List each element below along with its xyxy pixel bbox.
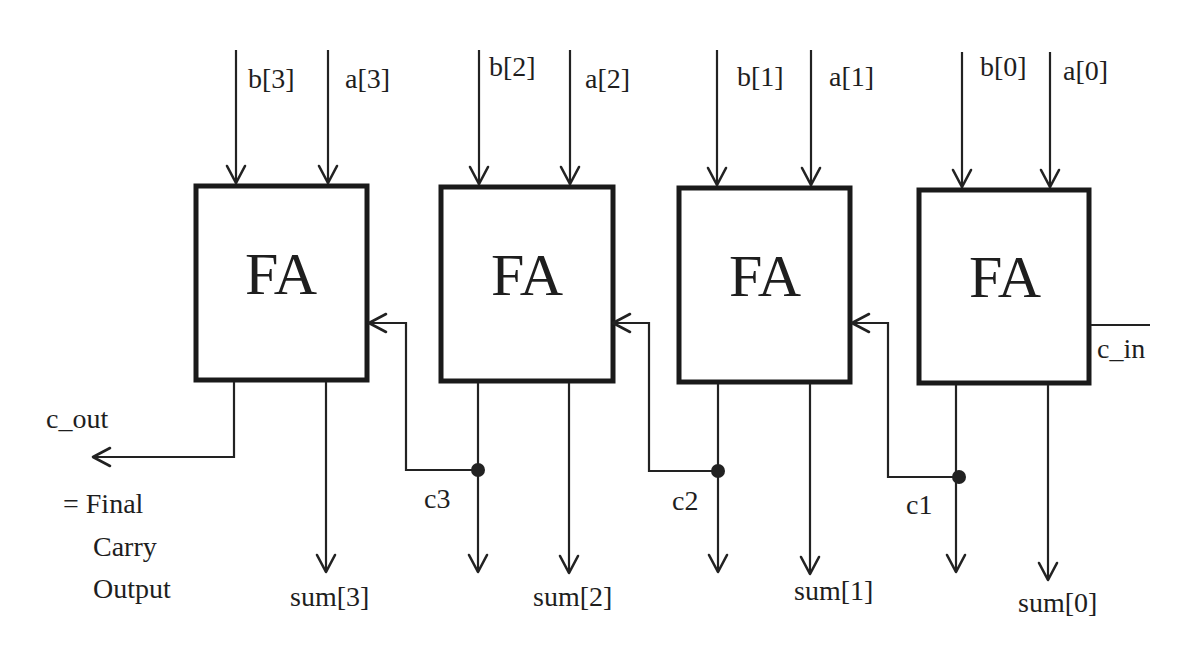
sum2-label: sum[2] [533, 581, 612, 612]
c3-junction-dot [471, 463, 485, 477]
full-adder-1: FA b[1] a[1] c2 sum[1] [613, 50, 874, 606]
a2-label: a[2] [585, 63, 630, 94]
fa3-label: FA [245, 241, 317, 307]
sum3-label: sum[3] [290, 581, 369, 612]
fa1-label: FA [729, 243, 801, 309]
c1-label: c1 [906, 489, 932, 520]
full-adder-2: FA b[2] a[2] c3 sum[2] [369, 50, 630, 612]
c2-label: c2 [672, 485, 698, 516]
c1-junction-dot [952, 470, 966, 484]
b0-label: b[0] [980, 51, 1027, 82]
b2-label: b[2] [489, 51, 536, 82]
c3-label: c3 [424, 483, 450, 514]
c-out-label: c_out [46, 403, 108, 434]
full-adder-3: FA b[3] a[3] c_out sum[3] [46, 50, 390, 612]
note-line-1: = Final [63, 488, 144, 519]
c-in-label: c_in [1097, 333, 1145, 364]
final-carry-note: = Final Carry Output [63, 488, 171, 604]
c2-junction-dot [711, 464, 725, 478]
fa2-label: FA [491, 242, 563, 308]
fa0-label: FA [969, 244, 1041, 310]
b3-label: b[3] [248, 63, 295, 94]
a0-label: a[0] [1063, 55, 1108, 86]
ripple-carry-adder-diagram: FA b[3] a[3] c_out sum[3] = Final Carry … [0, 0, 1194, 645]
sum1-label: sum[1] [794, 575, 873, 606]
b1-label: b[1] [737, 61, 784, 92]
full-adder-0: FA b[0] a[0] c_in c1 sum[0] [852, 51, 1150, 618]
a3-label: a[3] [345, 63, 390, 94]
sum0-label: sum[0] [1018, 587, 1097, 618]
a1-label: a[1] [829, 61, 874, 92]
note-line-3: Output [93, 573, 171, 604]
c-out-wire [94, 382, 234, 457]
note-line-2: Carry [93, 531, 157, 562]
